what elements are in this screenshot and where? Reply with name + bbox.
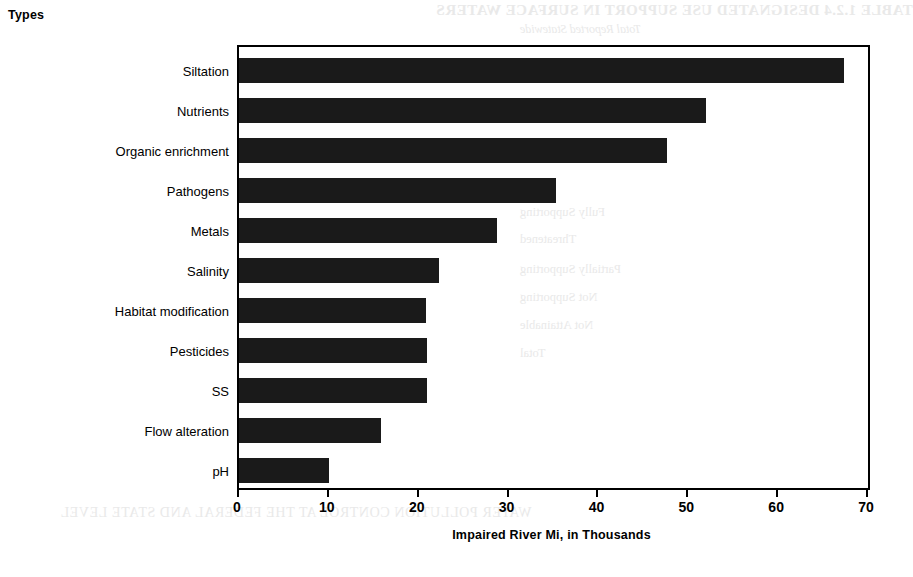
bar[interactable]: pH	[239, 458, 329, 483]
x-axis-title: Impaired River Mi, in Thousands	[237, 528, 866, 542]
x-axis-tick-label: 30	[499, 499, 515, 515]
bar[interactable]: Pesticides	[239, 338, 427, 363]
bar-row: SS	[239, 378, 868, 403]
x-axis-tick-mark	[866, 488, 868, 497]
bar[interactable]: Nutrients	[239, 98, 706, 123]
bar-category-label: pH	[212, 463, 229, 478]
x-axis-tick-label: 70	[858, 499, 874, 515]
x-axis-tick-mark	[417, 488, 419, 497]
bar-row: Habitat modification	[239, 298, 868, 323]
bar-category-label: Flow alteration	[144, 423, 229, 438]
x-axis-tick-mark	[776, 488, 778, 497]
bar-row: pH	[239, 458, 868, 483]
bar[interactable]: Metals	[239, 218, 497, 243]
bar[interactable]: Flow alteration	[239, 418, 381, 443]
x-axis-tick-label: 20	[409, 499, 425, 515]
bar-row: Nutrients	[239, 98, 868, 123]
x-axis-tick-label: 40	[589, 499, 605, 515]
bar-category-label: Pesticides	[170, 343, 229, 358]
bar-row: Metals	[239, 218, 868, 243]
bar[interactable]: Organic enrichment	[239, 138, 667, 163]
bar-row: Siltation	[239, 58, 868, 83]
x-axis-tick-mark	[327, 488, 329, 497]
bar-category-label: Organic enrichment	[116, 143, 229, 158]
bar[interactable]: Pathogens	[239, 178, 556, 203]
x-axis-tick-mark	[507, 488, 509, 497]
x-axis-tick-label: 10	[319, 499, 335, 515]
bar-category-label: SS	[212, 383, 229, 398]
bar-row: Organic enrichment	[239, 138, 868, 163]
bar-row: Salinity	[239, 258, 868, 283]
bar[interactable]: SS	[239, 378, 427, 403]
bar-row: Flow alteration	[239, 418, 868, 443]
bar-row: Pesticides	[239, 338, 868, 363]
bar[interactable]: Salinity	[239, 258, 439, 283]
x-axis-tick-mark	[686, 488, 688, 497]
bar-category-label: Siltation	[183, 63, 229, 78]
bar-row: Pathogens	[239, 178, 868, 203]
bar-category-label: Nutrients	[177, 103, 229, 118]
bar[interactable]: Habitat modification	[239, 298, 426, 323]
x-axis-tick-label: 60	[768, 499, 784, 515]
bar-category-label: Salinity	[187, 263, 229, 278]
x-axis-tick-mark	[596, 488, 598, 497]
bar-category-label: Pathogens	[167, 183, 229, 198]
bar-category-label: Metals	[191, 223, 229, 238]
y-axis-title: Types	[8, 8, 44, 22]
x-axis-tick-label: 50	[678, 499, 694, 515]
x-axis-tick-mark	[237, 488, 239, 497]
bars-container: SiltationNutrientsOrganic enrichmentPath…	[239, 47, 868, 488]
bar-category-label: Habitat modification	[115, 303, 229, 318]
bar[interactable]: Siltation	[239, 58, 844, 83]
x-axis-tick-label: 0	[233, 499, 241, 515]
